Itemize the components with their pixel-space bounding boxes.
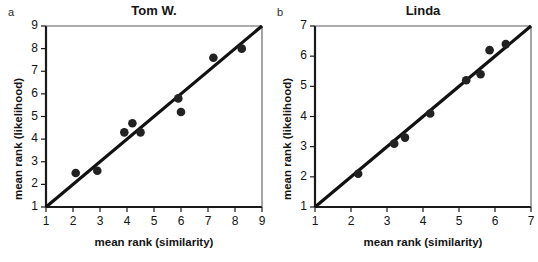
panel-b-xtick: 4 (408, 214, 438, 228)
panel-a-ytick: 3 (10, 154, 38, 168)
panel-b-ytick: 7 (279, 18, 307, 32)
panel-a-ytick: 2 (10, 176, 38, 190)
panel-b-ytick: 6 (279, 48, 307, 62)
panel-b-xtick: 2 (336, 214, 366, 228)
panel-a-ytick: 7 (10, 63, 38, 77)
panel-a-xtick: 7 (193, 214, 223, 228)
data-point (128, 119, 137, 128)
panel-b-ytick: 3 (279, 139, 307, 153)
panel-a-xlabel: mean rank (similarity) (46, 236, 262, 248)
panel-b-ytick: 2 (279, 169, 307, 183)
data-point (502, 40, 511, 49)
panel-a-ytick: 6 (10, 86, 38, 100)
data-point (174, 94, 183, 103)
panel-b-xtick: 5 (444, 214, 474, 228)
data-point (401, 133, 410, 142)
panel-b-ytick: 1 (279, 199, 307, 213)
panel-a-xtick: 1 (31, 214, 61, 228)
data-point (209, 53, 218, 62)
data-point (485, 46, 494, 55)
data-point (71, 169, 80, 178)
panel-b-xtick: 7 (516, 214, 538, 228)
panel-a: a Tom W. mean rank (similarity) mean ran… (0, 0, 269, 262)
figure-container: a Tom W. mean rank (similarity) mean ran… (0, 0, 538, 262)
panel-a-ytick: 4 (10, 131, 38, 145)
data-point (390, 139, 399, 148)
data-point (237, 44, 246, 53)
panel-b-xtick: 3 (372, 214, 402, 228)
panel-a-ytick: 8 (10, 41, 38, 55)
panel-b-ytick: 4 (279, 109, 307, 123)
panel-a-xtick: 2 (58, 214, 88, 228)
panel-a-ytick: 5 (10, 109, 38, 123)
panel-b-xlabel: mean rank (similarity) (315, 236, 531, 248)
data-point (476, 70, 485, 79)
data-point (426, 109, 435, 118)
data-point (354, 170, 363, 179)
panel-b-xtick: 6 (480, 214, 510, 228)
panel-a-xtick: 5 (139, 214, 169, 228)
panel-a-xtick: 8 (220, 214, 250, 228)
data-point (462, 76, 471, 85)
panel-b: b Linda mean rank (similarity) mean rank… (269, 0, 538, 262)
panel-a-xtick: 4 (112, 214, 142, 228)
data-point (93, 167, 102, 176)
data-point (177, 108, 186, 117)
panel-a-xtick: 6 (166, 214, 196, 228)
data-point (120, 128, 129, 137)
panel-a-ytick: 9 (10, 18, 38, 32)
panel-a-ytick: 1 (10, 199, 38, 213)
data-point (136, 128, 145, 137)
panel-a-xtick: 3 (85, 214, 115, 228)
panel-b-xtick: 1 (300, 214, 330, 228)
panel-b-ytick: 5 (279, 78, 307, 92)
